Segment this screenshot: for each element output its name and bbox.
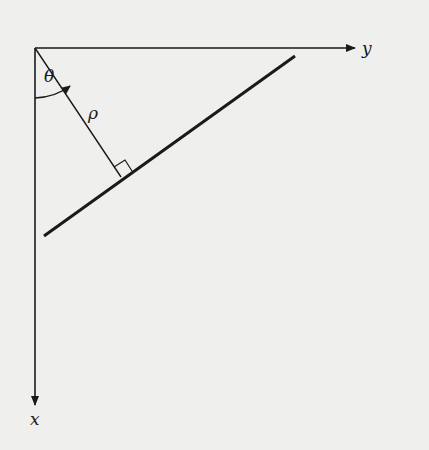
theta-label: θ [44,66,54,86]
diagram-canvas: y x ρ θ [0,0,429,450]
y-axis-label: y [361,38,372,58]
x-axis-label: x [30,409,40,429]
rho-label: ρ [87,103,98,123]
target-line [44,56,295,236]
